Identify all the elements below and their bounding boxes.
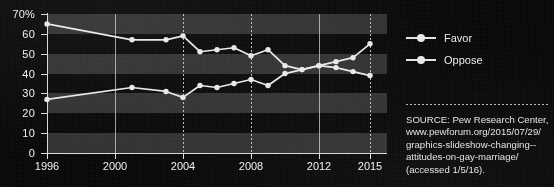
data-point-marker <box>180 95 185 100</box>
data-point-marker <box>44 97 49 102</box>
series-line <box>47 24 370 76</box>
data-point-marker <box>129 37 134 42</box>
chart-side-panel: Favor Oppose SOURCE: Pew Research Center… <box>398 0 554 187</box>
legend-marker-icon <box>406 32 436 44</box>
data-point-marker <box>197 83 202 88</box>
chart-legend: Favor Oppose <box>406 27 483 71</box>
series-oppose <box>44 21 372 78</box>
legend-label-favor: Favor <box>444 32 472 44</box>
data-point-marker <box>214 47 219 52</box>
data-point-marker <box>197 49 202 54</box>
data-point-marker <box>333 65 338 70</box>
data-point-marker <box>163 89 168 94</box>
data-point-marker <box>248 77 253 82</box>
data-point-marker <box>44 21 49 26</box>
legend-marker-icon <box>406 54 436 66</box>
data-point-marker <box>333 59 338 64</box>
data-point-marker <box>180 33 185 38</box>
legend-label-oppose: Oppose <box>444 54 483 66</box>
chart-plot-region: 70%6050403020100 19962000200420082012201… <box>0 0 395 187</box>
source-line: attitudes-on-gay-marriage/ <box>406 151 554 163</box>
source-line: SOURCE: Pew Research Center, <box>406 114 554 126</box>
data-point-marker <box>367 41 372 46</box>
data-point-marker <box>350 69 355 74</box>
data-point-marker <box>231 45 236 50</box>
data-point-marker <box>367 73 372 78</box>
data-point-marker <box>163 37 168 42</box>
legend-item-favor: Favor <box>406 27 483 49</box>
chart-figure: 70%6050403020100 19962000200420082012201… <box>0 0 554 187</box>
data-point-marker <box>265 83 270 88</box>
data-point-marker <box>299 67 304 72</box>
data-point-marker <box>214 85 219 90</box>
data-point-marker <box>265 47 270 52</box>
data-point-marker <box>129 85 134 90</box>
data-point-marker <box>231 81 236 86</box>
data-point-marker <box>248 53 253 58</box>
data-point-marker <box>282 63 287 68</box>
data-point-marker <box>282 71 287 76</box>
source-citation: SOURCE: Pew Research Center, www.pewforu… <box>406 114 554 176</box>
legend-item-oppose: Oppose <box>406 49 483 71</box>
series-line <box>47 44 370 100</box>
source-line: www.pewforum.org/2015/07/29/ <box>406 126 554 138</box>
data-point-marker <box>316 63 321 68</box>
legend-source-divider <box>406 104 548 105</box>
data-point-marker <box>350 55 355 60</box>
source-line: (accessed 1/5/16). <box>406 164 554 176</box>
source-line: graphics-slideshow-changing-- <box>406 139 554 151</box>
